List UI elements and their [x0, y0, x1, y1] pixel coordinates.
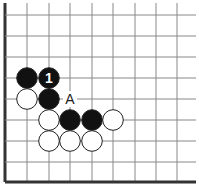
- black-stone-icon: [60, 110, 81, 131]
- move-number: 1: [45, 70, 53, 86]
- black-stone: [39, 89, 60, 110]
- black-stone: [17, 68, 38, 89]
- markers-layer: A: [63, 91, 77, 107]
- white-stone: [82, 131, 103, 152]
- black-stone-icon: [17, 68, 38, 89]
- white-stone-icon: [60, 131, 81, 152]
- white-stone-icon: [39, 131, 60, 152]
- white-stone: [60, 131, 81, 152]
- white-stone: [17, 89, 38, 110]
- black-stone-1: 1: [39, 68, 60, 89]
- black-stone-icon: [39, 89, 60, 110]
- black-stone: [82, 110, 103, 131]
- black-stone-icon: [82, 110, 103, 131]
- go-board: 1 A: [0, 0, 199, 186]
- white-stone: [39, 131, 60, 152]
- white-stone-icon: [39, 110, 60, 131]
- white-stone-icon: [82, 131, 103, 152]
- white-stone-icon: [17, 89, 38, 110]
- white-stone: [39, 110, 60, 131]
- white-stone: [103, 110, 124, 131]
- white-stone-icon: [103, 110, 124, 131]
- point-label-a: A: [65, 91, 75, 107]
- black-stone: [60, 110, 81, 131]
